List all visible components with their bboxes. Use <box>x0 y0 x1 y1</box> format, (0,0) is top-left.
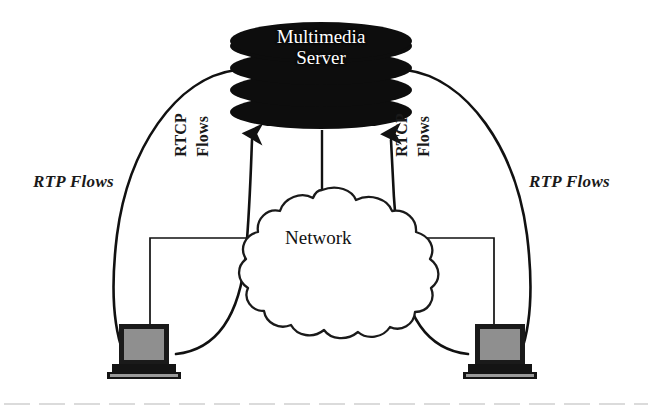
rtcp-flow-left-label: RTCP <box>173 113 190 157</box>
server-label-line2: Server <box>296 47 346 68</box>
rtcp-flow-left-path <box>176 140 252 354</box>
rtcp-flow-right-label-2: Flows <box>416 116 433 157</box>
rtcp-right-line2: Flows <box>415 116 432 157</box>
rtp-flow-left-label: RTP Flows <box>33 172 114 192</box>
network-diagram-figure: Multimedia Server Network RTP Flows RTP … <box>0 0 652 411</box>
rtcp-left-line1: RTCP <box>172 113 189 157</box>
network-cloud-shape <box>239 188 438 339</box>
rtcp-flow-left-label-2: Flows <box>195 116 212 157</box>
rtcp-flow-right-label: RTCP <box>394 113 411 157</box>
network-cloud-label: Network <box>285 227 351 249</box>
rtp-flow-right-label: RTP Flows <box>529 172 610 192</box>
rtcp-right-line1: RTCP <box>393 113 410 157</box>
multimedia-server-label: Multimedia Server <box>226 26 416 69</box>
server-label-line1: Multimedia <box>277 26 366 47</box>
rtcp-left-line2: Flows <box>194 116 211 157</box>
